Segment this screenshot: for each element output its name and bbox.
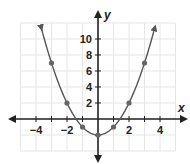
data-point	[111, 124, 116, 129]
data-point	[80, 124, 85, 129]
x-tick-label: 2	[126, 124, 132, 136]
x-tick-label: −2	[61, 124, 74, 136]
data-point	[95, 132, 100, 137]
data-point	[49, 60, 54, 65]
data-point	[64, 100, 69, 105]
y-axis-label: y	[103, 8, 112, 22]
y-tick-label: 6	[86, 65, 92, 77]
y-tick-label: 4	[86, 81, 93, 93]
x-axis-label: x	[177, 101, 186, 115]
data-point	[142, 60, 147, 65]
y-tick-label: 10	[80, 33, 92, 45]
y-tick-label: 8	[86, 49, 92, 61]
x-tick-label: −4	[30, 124, 43, 136]
x-tick-label: 4	[157, 124, 164, 136]
parabola-chart: y x −4 −2 2 4 10 8 6 4 2	[0, 0, 190, 164]
y-tick-label: 2	[86, 97, 92, 109]
data-point	[126, 100, 131, 105]
